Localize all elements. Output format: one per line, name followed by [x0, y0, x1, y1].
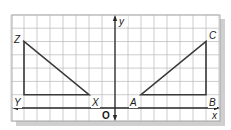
vertex-label-a: A — [129, 97, 137, 108]
coordinate-plane-figure: y x O Z Y X A B C — [0, 0, 231, 130]
vertex-label-z: Z — [13, 34, 21, 45]
x-axis-label: x — [211, 110, 218, 121]
vertex-label-c: C — [209, 30, 217, 41]
graph-svg: y x O Z Y X A B C — [0, 0, 231, 130]
y-axis-label: y — [118, 16, 125, 27]
origin-label: O — [102, 110, 110, 121]
vertex-label-x: X — [91, 97, 99, 108]
vertex-label-b: B — [209, 97, 216, 108]
